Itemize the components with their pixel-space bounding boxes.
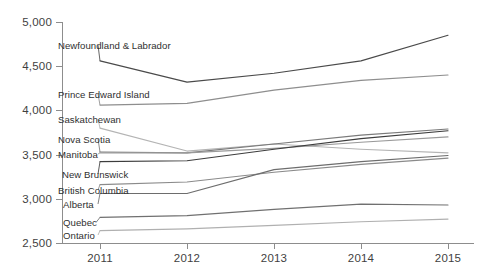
series-line (100, 131, 448, 162)
series-line (100, 75, 448, 105)
series-label-british-columbia: British Columbia (58, 185, 129, 196)
series-label-new-brunswick: New Brunswick (62, 169, 128, 180)
series-leader-line (98, 231, 100, 235)
series-line (100, 158, 448, 185)
series-label-quebec: Quebec (63, 217, 97, 228)
series-leader-line (98, 153, 100, 154)
series-line (100, 204, 448, 217)
series-label-ontario: Ontario (63, 230, 95, 241)
series-label-saskatchewan: Saskatchewan (58, 114, 121, 125)
series-label-newfoundland-labrador: Newfoundland & Labrador (58, 40, 171, 51)
series-label-nova-scotia: Nova Scotia (58, 134, 110, 145)
line-chart: 2,5003,0003,5004,0004,5005,000 201120122… (0, 0, 493, 277)
series-line (100, 219, 448, 230)
series-label-alberta: Alberta (63, 199, 94, 210)
series-label-manitoba: Manitoba (58, 149, 98, 160)
series-label-prince-edward-island: Prince Edward Island (58, 89, 150, 100)
